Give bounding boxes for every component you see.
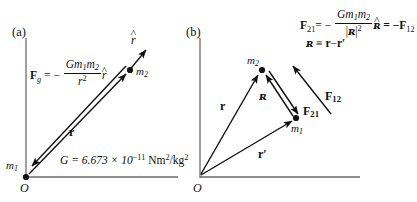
panel-b-script-r-label: ʀ (259, 90, 266, 102)
vector-F21-b (269, 71, 298, 114)
panel-b-definition: ʀ ≡ r−r′ (306, 38, 345, 50)
panel-a-force-subscript: g (37, 75, 41, 84)
panel-b-eq-tail: = −F (383, 19, 406, 31)
panel-a-mass2-subscript: 2 (144, 70, 148, 79)
panel-b-r-vector-label: r (220, 100, 225, 112)
panel-b-tag: (b) (186, 26, 201, 39)
panel-a-num-G-m: Gm (66, 58, 83, 70)
panel-b-def-prime: ′ (342, 37, 345, 49)
panel-a-fraction: Gm1m2 r2 (64, 58, 101, 88)
vector-script-r-b (266, 75, 293, 116)
panel-b-den-exponent: 2 (357, 24, 361, 33)
gravitation-figure: (a) m1 O m2 r ^r Fg = − Gm1m2 r2 ^r G = … (0, 0, 417, 202)
panel-a-den-exponent: 2 (83, 74, 87, 83)
panel-b-mass1-label: m1 (291, 123, 303, 136)
panel-a-fraction-numerator: Gm1m2 (64, 58, 101, 74)
mass-point-m1-a (23, 174, 29, 180)
panel-b-F12-subscript: 12 (332, 94, 341, 104)
panel-b-def-equiv: ≡ (316, 37, 323, 49)
panel-b-rprime-vector-label: r′ (258, 148, 267, 160)
panel-b-rprime-prime: ′ (263, 147, 266, 161)
panel-b-mass1-symbol: m (291, 122, 299, 134)
panel-b-num-sub2: 2 (366, 13, 370, 22)
panel-b-def-script-r: ʀ (306, 37, 313, 49)
panel-b-origin-label: O (193, 182, 202, 194)
panel-a-force-equation: Fg = − Gm1m2 r2 ^r (30, 58, 106, 88)
panel-b-force-equation: F21= − Gm1m2 |ʀ|2 ^ʀ = −F12 (300, 8, 415, 38)
vector-rprime-b (201, 121, 292, 175)
panel-b-num-m2: m (358, 8, 366, 20)
panel-a-constant-exponent: −11 (133, 153, 146, 162)
panel-b-mass2-subscript: 2 (255, 59, 259, 68)
panel-a-mass1-label: m1 (6, 160, 18, 173)
panel-b-eq-tail-subscript: 12 (406, 25, 414, 34)
panel-b-eq-script-r-caret: ^ (374, 15, 379, 26)
panel-a-tag: (a) (12, 26, 26, 39)
vector-r-b (201, 75, 258, 174)
panel-a-equals-minus: = − (44, 69, 60, 81)
panel-a-mass1-subscript: 1 (14, 164, 18, 173)
panel-b-fraction-numerator: Gm1m2 (335, 8, 372, 24)
panel-a-constant-lead: G = 6.673 × 10 (60, 154, 133, 166)
panel-b-mass2-label: m2 (247, 55, 259, 68)
panel-a-origin-label: O (20, 182, 29, 194)
panel-b-F21-label: F21 (303, 105, 319, 119)
panel-a-num-sub2: 2 (95, 63, 99, 72)
panel-a-r-vector-label: r (69, 126, 74, 138)
panel-a-constant-units: Nm (145, 154, 165, 166)
panel-a-rhat-label: ^r (131, 34, 136, 46)
panel-a-constant-text: G = 6.673 × 10−11 Nm2/kg2 (60, 154, 188, 167)
panel-b-mass1-subscript: 1 (299, 127, 303, 136)
panel-a-rhat-caret: ^ (131, 28, 136, 39)
panel-b-F12-label: F12 (325, 90, 341, 104)
panel-a-mass2-label: m2 (136, 66, 148, 79)
panel-b-eq-equals-minus: = − (315, 19, 331, 31)
panel-a-eq-rhat-caret: ^ (102, 65, 107, 76)
panel-a-mass2-symbol: m (136, 65, 144, 77)
panel-a-constant-units-tail: /kg (170, 154, 185, 166)
panel-a-constant-units-tail-sup: 2 (184, 153, 188, 162)
panel-b-F21-subscript: 21 (310, 109, 319, 119)
panel-a-num-m2: m (87, 58, 95, 70)
panel-a-mass1-symbol: m (6, 159, 14, 171)
panel-b-num-G-m: Gm (337, 8, 354, 20)
panel-b-fraction: Gm1m2 |ʀ|2 (335, 8, 372, 38)
mass-point-m2-b (259, 67, 265, 73)
panel-b-script-r-symbol: ʀ (259, 90, 266, 103)
panel-b-mass2-symbol: m (247, 54, 255, 66)
panel-a-fraction-denominator: r2 (64, 74, 101, 88)
panel-b-eq-F-symbol: F (300, 19, 307, 31)
mass-point-m1-b (293, 115, 299, 121)
panel-a-force-symbol: F (30, 69, 37, 81)
mass-point-m2-a (127, 67, 133, 73)
